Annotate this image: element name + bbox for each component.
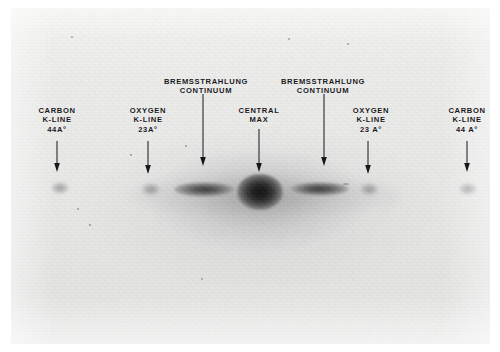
oxygen-spot-left bbox=[141, 183, 161, 196]
annotation-arrow-bremsstrahlung-left bbox=[199, 94, 208, 166]
annotation-label-central-max: CENTRAL MAX bbox=[239, 106, 280, 125]
oxygen-spot-right bbox=[359, 183, 379, 196]
film-grain-overlay bbox=[11, 8, 490, 344]
annotation-label-bremsstrahlung-left: BREMSSTRAHLUNG CONTINUUM bbox=[164, 77, 248, 96]
plate-vignette bbox=[11, 8, 490, 344]
emulsion-speck bbox=[347, 43, 349, 45]
annotation-label-carbon-left: CARBON K-LINE 44A° bbox=[38, 106, 75, 134]
annotation-label-carbon-right: CARBON K-LINE 44 A° bbox=[448, 106, 485, 134]
emulsion-speck bbox=[77, 208, 79, 210]
haze-band bbox=[131, 176, 401, 216]
emulsion-speck bbox=[185, 145, 187, 147]
carbon-spot-left bbox=[51, 182, 69, 194]
emulsion-speck bbox=[130, 154, 132, 156]
brems-streak-right bbox=[289, 182, 349, 196]
annotation-arrow-central-max bbox=[255, 129, 264, 172]
carbon-spot-right bbox=[459, 183, 477, 195]
emulsion-speck bbox=[343, 183, 349, 185]
spectrum-figure: CARBON K-LINE 44A°OXYGEN K-LINE 23A°BREM… bbox=[0, 0, 500, 352]
annotation-label-bremsstrahlung-right: BREMSSTRAHLUNG CONTINUUM bbox=[281, 77, 365, 96]
annotation-arrow-bremsstrahlung-right bbox=[320, 94, 329, 166]
photographic-plate: CARBON K-LINE 44A°OXYGEN K-LINE 23A°BREM… bbox=[11, 8, 490, 344]
emulsion-speck bbox=[71, 36, 73, 38]
emulsion-speck bbox=[201, 278, 203, 280]
emulsion-speck bbox=[89, 224, 91, 226]
annotation-label-oxygen-right: OXYGEN K-LINE 23 A° bbox=[353, 106, 389, 134]
annotation-label-oxygen-left: OXYGEN K-LINE 23A° bbox=[130, 106, 166, 134]
annotation-arrow-carbon-right bbox=[463, 141, 472, 172]
annotation-arrow-carbon-left bbox=[53, 141, 62, 172]
annotation-arrow-oxygen-left bbox=[144, 141, 153, 174]
brems-streak-left bbox=[174, 182, 236, 197]
central-max-spot bbox=[237, 174, 283, 210]
emulsion-speck bbox=[288, 38, 290, 40]
annotation-arrow-oxygen-right bbox=[364, 141, 373, 174]
